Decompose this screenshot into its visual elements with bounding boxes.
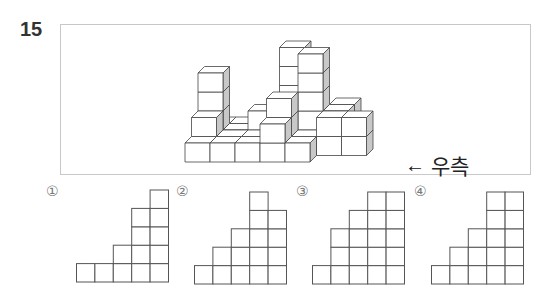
view-direction-indicator: ← 우측 <box>405 150 469 180</box>
option-3-grid[interactable] <box>312 188 406 285</box>
option-4-label[interactable]: ④ <box>414 183 427 199</box>
option-1-label[interactable]: ① <box>46 183 59 199</box>
direction-label: 우측 <box>431 150 469 180</box>
figure-box: ← 우측 <box>60 24 531 175</box>
option-3-label[interactable]: ③ <box>296 183 309 199</box>
question-number: 15 <box>20 18 42 41</box>
arrow-left-icon: ← <box>405 155 425 175</box>
option-4-grid[interactable] <box>431 188 525 285</box>
option-1-grid[interactable] <box>76 186 170 283</box>
option-2-grid[interactable] <box>194 188 288 285</box>
option-2-label[interactable]: ② <box>176 183 189 199</box>
